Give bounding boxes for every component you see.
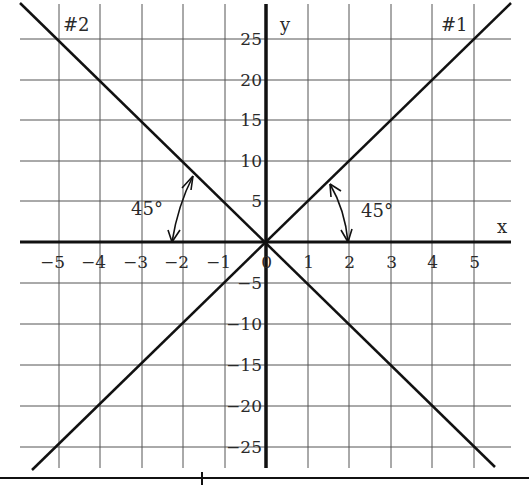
y-tick-label: 5 [251,191,262,211]
y-tick-label: −25 [226,437,262,457]
graph-canvas: −5−4−3−2−1012345 252015105−5−10−15−20−25… [0,0,529,485]
x-tick-label: −2 [164,252,189,272]
x-tick-label: −5 [40,252,65,272]
line-1 [32,3,511,470]
y-tick-label: −10 [226,314,262,334]
y-axis-label: y [279,14,291,35]
y-tick-label: 25 [240,29,262,49]
y-tick-label: −15 [226,355,262,375]
y-tick-label: −5 [237,273,262,293]
y-tick-label: 20 [240,70,262,90]
x-tick-label: 2 [344,252,355,272]
x-tick-label: 0 [261,252,272,272]
x-tick-label: −3 [123,252,148,272]
angle-label-right: 45° [361,200,393,221]
x-tick-label: 5 [469,252,480,272]
line-1-label: #1 [441,14,468,35]
x-tick-labels: −5−4−3−2−1012345 [40,252,480,272]
y-tick-label: 10 [240,151,262,171]
line-2-label: #2 [63,14,90,35]
x-tick-label: −1 [206,252,231,272]
x-tick-label: 3 [386,252,397,272]
x-tick-label: 4 [427,252,438,272]
y-tick-label: −20 [226,396,262,416]
angle-label-left: 45° [131,198,163,219]
x-axis-label: x [497,216,507,237]
y-tick-label: 15 [240,110,262,130]
x-tick-label: −4 [81,252,106,272]
x-tick-label: 1 [303,252,314,272]
angle-arc-left [168,176,193,242]
